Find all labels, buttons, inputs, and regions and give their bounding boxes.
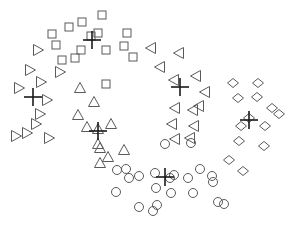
centroid-cross-icon (171, 78, 189, 96)
triangle-right-marker (56, 67, 66, 78)
triangle-right-marker (43, 95, 53, 106)
square-marker (65, 23, 73, 31)
square-marker (102, 46, 110, 54)
square-marker (120, 42, 128, 50)
triangle-left-marker (174, 48, 184, 59)
square-marker (77, 46, 85, 54)
square-marker (98, 11, 106, 19)
triangle-left-marker (189, 121, 199, 132)
square-marker (129, 53, 137, 61)
triangle-left-marker (170, 103, 180, 114)
square-marker (71, 54, 79, 62)
circle-marker (135, 203, 144, 212)
circle-marker (196, 165, 205, 174)
scatter-plot-canvas (0, 0, 289, 228)
square-marker (123, 29, 131, 37)
circle-marker (122, 165, 131, 174)
square-marker (48, 30, 56, 38)
triangle-left-marker (191, 71, 201, 82)
triangle-right-marker (15, 83, 25, 94)
diamond-marker (253, 79, 264, 88)
centroid-cross-icon (24, 88, 42, 106)
diamond-marker (233, 94, 244, 103)
circle-marker (112, 188, 121, 197)
diamond-marker (224, 156, 235, 165)
circle-marker (161, 140, 170, 149)
square-marker (58, 56, 66, 64)
circle-marker (220, 200, 229, 209)
triangle-left-marker (188, 105, 198, 116)
cluster-left-triangles (146, 43, 210, 145)
triangle-left-marker (167, 119, 177, 130)
triangle-up-marker (75, 83, 86, 93)
centroid-cross-icon (83, 31, 101, 49)
diamond-marker (234, 137, 245, 146)
centroid-cross-icon (240, 111, 258, 129)
cluster-diamonds (224, 79, 285, 176)
triangle-right-marker (45, 133, 55, 144)
square-marker (78, 18, 86, 26)
triangle-right-marker (36, 109, 46, 120)
triangle-right-marker (12, 131, 22, 142)
circle-marker (184, 174, 193, 183)
circle-marker (167, 189, 176, 198)
circle-marker (152, 184, 161, 193)
triangle-up-marker (82, 122, 93, 132)
triangle-right-marker (34, 45, 44, 56)
triangle-left-marker (170, 134, 180, 145)
circle-marker (125, 174, 134, 183)
triangle-left-marker (169, 75, 179, 86)
circle-marker (214, 198, 223, 207)
triangle-up-marker (95, 143, 106, 153)
diamond-marker (267, 104, 278, 113)
circle-marker (208, 172, 217, 181)
triangle-left-marker (185, 133, 195, 144)
scatter-plot (0, 0, 289, 228)
triangle-up-marker (89, 97, 100, 107)
triangle-up-marker (106, 119, 117, 129)
diamond-marker (228, 79, 239, 88)
diamond-marker (259, 142, 270, 151)
diamond-marker (260, 122, 271, 131)
diamond-marker (252, 93, 263, 102)
square-marker (52, 41, 60, 49)
circle-marker (113, 166, 122, 175)
circle-marker (135, 172, 144, 181)
diamond-marker (274, 110, 285, 119)
square-marker (102, 80, 110, 88)
diamond-marker (238, 167, 249, 176)
circle-marker (209, 178, 218, 187)
triangle-left-marker (146, 43, 156, 54)
cluster-squares (48, 11, 137, 88)
diamond-marker (236, 122, 247, 131)
circle-marker (151, 169, 160, 178)
cluster-right-triangles (12, 45, 66, 144)
triangle-up-marker (119, 145, 130, 155)
triangle-right-marker (37, 77, 47, 88)
circle-marker (189, 189, 198, 198)
triangle-left-marker (155, 62, 165, 73)
cluster-up-triangles (73, 83, 130, 168)
triangle-right-marker (26, 65, 36, 76)
triangle-right-marker (32, 119, 42, 130)
triangle-left-marker (200, 87, 210, 98)
triangle-up-marker (73, 110, 84, 120)
centroid-cross-icon (89, 122, 107, 140)
